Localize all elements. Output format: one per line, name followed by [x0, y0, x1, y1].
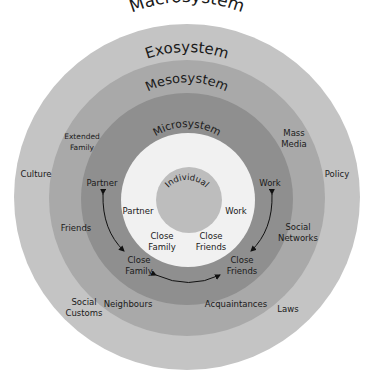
meso-partner-label: Partner: [87, 178, 118, 188]
micro-close-family-label-1: Close: [150, 231, 173, 241]
ecological-systems-diagram: Macrosystem Exosystem Mesosystem Microsy…: [0, 0, 371, 383]
micro-work-label: Work: [225, 206, 247, 216]
social-customs-label-2: Customs: [66, 308, 104, 318]
meso-close-friends-label-2: Friends: [227, 266, 258, 276]
acquaintances-label: Acquaintances: [205, 299, 268, 309]
meso-close-family-label-2: Family: [125, 266, 152, 276]
macrosystem-label: Macrosystem: [127, 0, 248, 16]
culture-label: Culture: [21, 169, 52, 179]
extended-family-label-1: Extended: [64, 132, 100, 141]
meso-close-family-label-1: Close: [127, 255, 150, 265]
social-networks-label-2: Networks: [278, 233, 318, 243]
micro-partner-label: Partner: [123, 206, 154, 216]
mass-media-label-1: Mass: [283, 128, 305, 138]
diagram-canvas: Macrosystem Exosystem Mesosystem Microsy…: [0, 0, 371, 383]
policy-label: Policy: [325, 169, 349, 179]
micro-close-friends-label-2: Friends: [196, 242, 227, 252]
extended-family-label-2: Family: [70, 143, 95, 152]
laws-label: Laws: [277, 304, 299, 314]
friends-label: Friends: [61, 223, 92, 233]
meso-work-label: Work: [259, 178, 281, 188]
social-customs-label-1: Social: [71, 297, 96, 307]
mass-media-label-2: Media: [281, 139, 307, 149]
neighbours-label: Neighbours: [104, 299, 153, 309]
micro-close-family-label-2: Family: [148, 242, 175, 252]
meso-close-friends-label-1: Close: [230, 255, 253, 265]
micro-close-friends-label-1: Close: [199, 231, 222, 241]
social-networks-label-1: Social: [285, 222, 310, 232]
